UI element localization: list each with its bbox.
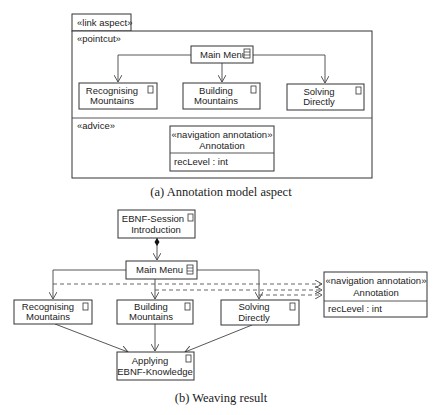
annotation-stereotype: «navigation annotation» bbox=[172, 129, 273, 140]
applying-node-b[interactable]: Applying EBNF-Knowledge bbox=[117, 352, 194, 380]
edge-b-menu-solving bbox=[197, 270, 259, 299]
aspect-label: «link aspect» bbox=[77, 17, 132, 28]
svg-text:Annotation: Annotation bbox=[353, 287, 398, 298]
svg-text:«navigation annotation»: «navigation annotation» bbox=[326, 275, 427, 286]
page-icon bbox=[251, 86, 256, 93]
svg-text:Mountains: Mountains bbox=[194, 95, 238, 106]
menu-icon bbox=[244, 49, 250, 58]
svg-text:Solving: Solving bbox=[238, 301, 269, 312]
main-menu-label: Main Menu bbox=[200, 49, 247, 60]
svg-text:Main Menu: Main Menu bbox=[136, 264, 183, 275]
main-menu-node-a[interactable]: Main Menu bbox=[191, 46, 253, 63]
svg-text:Directly: Directly bbox=[303, 96, 335, 107]
page-icon bbox=[148, 86, 153, 93]
edge-b-solving-applying bbox=[185, 325, 252, 352]
page-icon bbox=[185, 303, 190, 310]
recognising-node-a[interactable]: Recognising Mountains bbox=[79, 83, 157, 109]
edge-b-menu-recognising bbox=[53, 270, 126, 299]
page-icon bbox=[290, 303, 295, 310]
caption-b: (b) Weaving result bbox=[175, 391, 268, 405]
page-icon bbox=[356, 87, 361, 94]
svg-text:recLevel : int: recLevel : int bbox=[328, 303, 382, 314]
svg-text:Mountains: Mountains bbox=[90, 95, 134, 106]
advice-label: «advice» bbox=[77, 120, 115, 131]
building-node-a[interactable]: Building Mountains bbox=[183, 83, 260, 109]
session-node-b[interactable]: EBNF-Session Introduction bbox=[118, 210, 195, 238]
svg-text:Applying: Applying bbox=[132, 355, 168, 366]
page-icon bbox=[83, 303, 88, 310]
svg-text:EBNF-Knowledge: EBNF-Knowledge bbox=[117, 366, 193, 377]
building-node-b[interactable]: Building Mountains bbox=[117, 300, 193, 324]
annotation-name: Annotation bbox=[199, 140, 244, 151]
page-icon bbox=[186, 355, 191, 362]
annotation-attribute: recLevel : int bbox=[174, 156, 228, 167]
svg-text:EBNF-Session: EBNF-Session bbox=[122, 213, 184, 224]
menu-icon bbox=[187, 265, 193, 274]
solving-node-b[interactable]: Solving Directly bbox=[221, 300, 299, 325]
svg-text:Introduction: Introduction bbox=[131, 224, 181, 235]
svg-text:Mountains: Mountains bbox=[26, 311, 70, 322]
svg-text:Mountains: Mountains bbox=[129, 311, 173, 322]
svg-text:Directly: Directly bbox=[238, 312, 270, 323]
annotation-class-a[interactable]: «navigation annotation» Annotation recLe… bbox=[170, 126, 274, 171]
solving-node-a[interactable]: Solving Directly bbox=[287, 84, 364, 110]
main-menu-node-b[interactable]: Main Menu bbox=[126, 261, 197, 279]
page-icon bbox=[188, 214, 193, 221]
diagram-canvas: «link aspect» «pointcut» «advice» Main M… bbox=[0, 0, 442, 415]
recognising-node-b[interactable]: Recognising Mountains bbox=[14, 300, 92, 324]
pointcut-label: «pointcut» bbox=[77, 33, 121, 44]
edge-b-recognising-applying bbox=[55, 324, 128, 352]
caption-a: (a) Annotation model aspect bbox=[150, 185, 292, 199]
annotation-class-b[interactable]: «navigation annotation» Annotation recLe… bbox=[324, 272, 427, 317]
